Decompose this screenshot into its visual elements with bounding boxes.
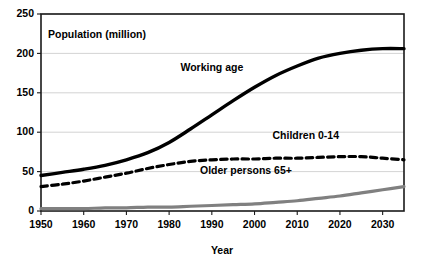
x-tick-label: 1950 xyxy=(29,218,53,230)
series-label-children-0-14: Children 0-14 xyxy=(273,129,340,141)
series-line-older-persons-65 xyxy=(41,187,404,209)
x-axis-ticks: 195019601970198019902000201020202030 xyxy=(29,211,394,230)
x-tick-label: 1960 xyxy=(72,218,96,230)
y-tick-label: 200 xyxy=(16,47,34,59)
y-tick-label: 150 xyxy=(16,86,34,98)
x-tick-label: 1980 xyxy=(157,218,181,230)
population-line-chart: 050100150200250 195019601970198019902000… xyxy=(0,0,421,262)
y-axis-ticks: 050100150200250 xyxy=(16,7,41,216)
x-axis-title: Year xyxy=(211,244,233,256)
y-tick-label: 250 xyxy=(16,7,34,19)
plot-frame xyxy=(41,14,404,211)
series-label-older-persons-65: Older persons 65+ xyxy=(200,164,292,176)
series-label-working-age: Working age xyxy=(180,61,243,73)
x-tick-label: 2010 xyxy=(286,218,310,230)
x-tick-label: 1970 xyxy=(115,218,139,230)
x-tick-label: 2030 xyxy=(371,218,395,230)
y-tick-label: 50 xyxy=(22,165,34,177)
x-tick-label: 2020 xyxy=(328,218,352,230)
y-tick-label: 100 xyxy=(16,125,34,137)
x-tick-label: 2000 xyxy=(243,218,267,230)
chart-canvas: 050100150200250 195019601970198019902000… xyxy=(0,0,421,262)
x-tick-label: 1990 xyxy=(200,218,224,230)
y-tick-label: 0 xyxy=(28,204,34,216)
plot-title: Population (million) xyxy=(48,28,146,40)
